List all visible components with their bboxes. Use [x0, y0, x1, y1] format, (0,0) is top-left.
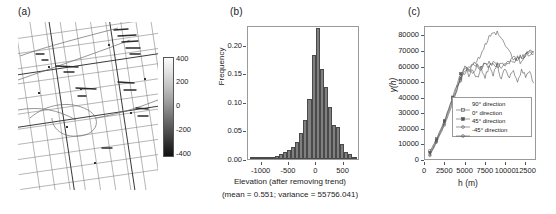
variogram-y-tick-mark — [421, 113, 424, 114]
variogram-y-tick-label: 40000 — [398, 93, 419, 102]
variogram-x-tick-mark — [444, 162, 445, 165]
histogram-x-axis-label: Elevation (after removing trend) — [200, 177, 380, 186]
variogram-y-tick-label: 10000 — [398, 139, 419, 148]
colorbar-tick-4: -400 — [176, 149, 191, 158]
histogram-x-tick-mark — [315, 162, 316, 165]
variogram-x-tick-mark — [465, 162, 466, 165]
panel-b-label: (b) — [230, 6, 243, 17]
histogram-y-tick-mark — [243, 46, 246, 47]
histogram-y-axis-label: Frequency — [217, 37, 226, 97]
histogram-y-tick-label: 0.10 — [227, 98, 242, 107]
variogram-x-tick-mark — [424, 162, 425, 165]
colorbar-tick-2: 0 — [176, 101, 180, 110]
legend-label: 0° direction — [471, 110, 502, 116]
variogram-y-tick-label: 50000 — [398, 77, 419, 86]
variogram-y-ticks: 0100002000030000400005000060000700008000… — [378, 20, 422, 166]
histogram-y-ticks: 0.000.050.100.150.20 — [208, 20, 246, 166]
legend-symbol-circle-icon — [455, 117, 471, 125]
colorbar-tick-0: 400 — [176, 54, 189, 63]
legend-symbol-square-icon — [455, 109, 471, 117]
variogram-y-tick-mark — [421, 35, 424, 36]
variogram-x-tick-mark — [505, 162, 506, 165]
colorbar — [163, 57, 174, 157]
legend-label: 45° direction — [471, 118, 505, 124]
variogram-x-ticks: 02500500075001000012500 — [416, 162, 546, 176]
legend-symbol-star-icon — [455, 126, 471, 134]
variogram-x-tick-label: 2500 — [436, 166, 453, 175]
variogram-x-tick-mark — [485, 162, 486, 165]
histogram-x-tick-label: 0 — [313, 166, 317, 175]
colorbar-tick-1: 200 — [176, 77, 189, 86]
variogram-x-axis-label: h (m) — [380, 178, 556, 188]
variogram-y-tick-label: 30000 — [398, 108, 419, 117]
variogram-y-axis-label: γ(h) — [388, 65, 398, 105]
histogram-y-tick-label: 0.05 — [227, 126, 242, 135]
histogram-x-tick-label: 500 — [336, 166, 349, 175]
variogram-y-tick-mark — [421, 82, 424, 83]
figure-root: (a) — [0, 0, 556, 214]
variogram-y-tick-label: 80000 — [398, 30, 419, 39]
histogram-x-tick-label: -1000 — [251, 166, 270, 175]
legend-item[interactable]: -45° direction — [455, 126, 528, 135]
colorbar-ticks: 400 200 0 -200 -400 — [176, 50, 200, 168]
variogram-y-tick-mark — [421, 51, 424, 52]
variogram-y-tick-label: 60000 — [398, 62, 419, 71]
histogram-bars — [248, 27, 358, 159]
variogram-x-tick-mark — [525, 162, 526, 165]
legend-label: 90° direction — [471, 101, 505, 107]
histogram-x-tick-label: -500 — [280, 166, 295, 175]
histogram-x-tick-mark — [288, 162, 289, 165]
variogram-x-tick-label: 5000 — [456, 166, 473, 175]
histogram-bar — [352, 157, 356, 159]
legend-item[interactable]: 45° direction — [455, 117, 528, 126]
histogram-x-tick-mark — [343, 162, 344, 165]
variogram-y-tick-mark — [421, 144, 424, 145]
legend-label: -45° direction — [471, 127, 507, 133]
legend-symbol-triangle-icon — [455, 100, 471, 108]
variogram-y-tick-mark — [421, 160, 424, 161]
histogram-plot-area — [247, 26, 359, 160]
panel-c-label: (c) — [408, 6, 420, 17]
histogram-y-tick-label: 0.15 — [227, 69, 242, 78]
elevation-map-image — [18, 22, 158, 190]
variogram-y-tick-mark — [421, 67, 424, 68]
histogram-y-tick-label: 0.20 — [227, 41, 242, 50]
variogram-x-tick-label: 7500 — [477, 166, 494, 175]
histogram-y-tick-mark — [243, 160, 246, 161]
variogram-y-tick-label: 20000 — [398, 124, 419, 133]
variogram-x-tick-label: 12500 — [515, 166, 536, 175]
variogram-legend: 90° direction0° direction45° direction-4… — [452, 97, 532, 137]
histogram-y-tick-mark — [243, 131, 246, 132]
histogram-stats-annotation: (mean = 0.551; variance = 55756.041) — [200, 190, 380, 199]
histogram-y-tick-mark — [243, 74, 246, 75]
variogram-x-tick-label: 10000 — [495, 166, 516, 175]
variogram-x-tick-label: 0 — [422, 166, 426, 175]
variogram-y-tick-mark — [421, 129, 424, 130]
panel-a: (a) — [0, 0, 200, 214]
legend-item[interactable]: 90° direction — [455, 100, 528, 109]
histogram-x-ticks: -1000-5000500 — [238, 162, 373, 176]
variogram-y-tick-mark — [421, 98, 424, 99]
histogram-y-tick-mark — [243, 103, 246, 104]
panel-a-label: (a) — [18, 6, 31, 17]
legend-item[interactable]: 0° direction — [455, 109, 528, 118]
variogram-y-tick-label: 70000 — [398, 46, 419, 55]
variogram-plot-area — [424, 26, 536, 160]
panel-b: (b) 0.000.050.100.150.20 -1000-5000500 F… — [200, 0, 380, 214]
colorbar-tick-3: -200 — [176, 125, 191, 134]
panel-c: (c) 010000200003000040000500006000070000… — [380, 0, 556, 214]
variogram-data-marker — [460, 73, 462, 75]
histogram-x-tick-mark — [261, 162, 262, 165]
